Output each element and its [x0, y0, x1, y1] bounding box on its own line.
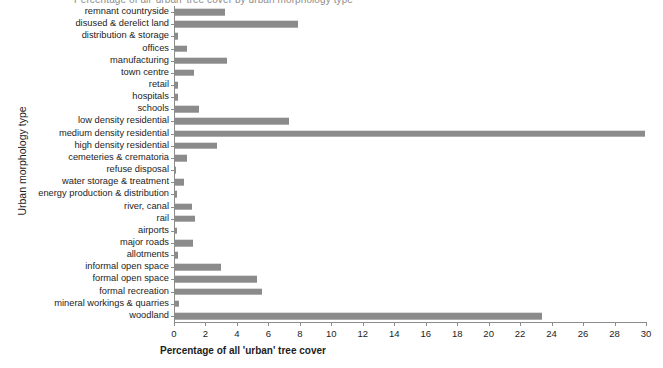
x-axis-tick: [394, 322, 395, 326]
bar-category-label: airports: [138, 226, 169, 235]
bar-row: low density residential: [174, 115, 646, 127]
bar-row: hospitals: [174, 91, 646, 103]
bar-row: cemeteries & crematoria: [174, 152, 646, 164]
y-axis-tick: [171, 24, 174, 25]
x-axis-tick: [489, 322, 490, 326]
bar-category-label: medium density residential: [59, 129, 169, 138]
x-axis-tick: [205, 322, 206, 326]
bar-category-label: hospitals: [132, 92, 169, 101]
bar: [175, 106, 199, 113]
bar-row: manufacturing: [174, 55, 646, 67]
bar-category-label: water storage & treatment: [62, 178, 169, 187]
bar: [175, 179, 184, 186]
bar-category-label: distribution & storage: [82, 32, 169, 41]
bar-row: water storage & treatment: [174, 176, 646, 188]
x-axis-tick-label: 8: [297, 328, 302, 339]
y-axis-tick: [171, 194, 174, 195]
bar-category-label: refuse disposal: [106, 165, 169, 174]
bar: [175, 82, 178, 89]
x-axis-tick-label: 10: [326, 328, 337, 339]
x-axis-tick: [552, 322, 553, 326]
y-axis-tick: [171, 207, 174, 208]
bar-row: energy production & distribution: [174, 188, 646, 200]
x-axis-tick: [583, 322, 584, 326]
x-axis-tick-label: 6: [266, 328, 271, 339]
bar-row: mineral workings & quarries: [174, 298, 646, 310]
y-axis-tick: [171, 12, 174, 13]
chart-title: Percentage of all 'urban' tree cover by …: [74, 0, 353, 5]
bar-category-label: high density residential: [74, 141, 169, 150]
bar-row: refuse disposal: [174, 164, 646, 176]
y-axis-title: Urban morphology type: [16, 81, 28, 241]
y-axis-tick: [171, 219, 174, 220]
x-axis-tick-label: 24: [546, 328, 557, 339]
bar-category-label: informal open space: [85, 263, 169, 272]
bar: [175, 70, 194, 77]
bar-category-label: town centre: [121, 68, 169, 77]
bar-category-label: schools: [137, 105, 169, 114]
bar-category-label: mineral workings & quarries: [54, 299, 169, 308]
bar-row: rail: [174, 213, 646, 225]
y-axis-tick: [171, 85, 174, 86]
bar-row: remnant countryside: [174, 6, 646, 18]
y-axis-tick: [171, 182, 174, 183]
bar-row: disused & derelict land: [174, 18, 646, 30]
x-axis-tick-label: 16: [420, 328, 431, 339]
y-axis-tick: [171, 49, 174, 50]
x-axis-tick: [363, 322, 364, 326]
bar-category-label: manufacturing: [110, 56, 169, 65]
x-axis-tick-label: 2: [203, 328, 208, 339]
bar: [175, 130, 645, 137]
bar: [175, 21, 298, 28]
bar: [175, 191, 177, 198]
bar-category-label: woodland: [129, 311, 169, 320]
bar: [175, 45, 187, 52]
bar: [175, 142, 217, 149]
x-axis-tick-label: 18: [452, 328, 463, 339]
bar: [175, 288, 262, 295]
y-axis-tick: [171, 292, 174, 293]
bar-row: airports: [174, 225, 646, 237]
bar: [175, 155, 187, 162]
y-axis-tick: [171, 267, 174, 268]
y-axis-tick: [171, 279, 174, 280]
y-axis-tick: [171, 36, 174, 37]
plot-area: remnant countrysidedisused & derelict la…: [174, 6, 646, 322]
bar: [175, 276, 257, 283]
bar-category-label: formal recreation: [99, 287, 169, 296]
x-axis-title: Percentage of all 'urban' tree cover: [160, 345, 326, 356]
y-axis-tick: [171, 158, 174, 159]
bar-category-label: energy production & distribution: [38, 190, 169, 199]
bar: [175, 252, 178, 259]
bar-row: woodland: [174, 310, 646, 322]
bar: [175, 94, 178, 101]
x-axis-tick-label: 12: [358, 328, 369, 339]
bar-category-label: low density residential: [78, 117, 169, 126]
bar-row: town centre: [174, 67, 646, 79]
bar: [175, 300, 179, 307]
bar: [175, 57, 227, 64]
bar-row: major roads: [174, 237, 646, 249]
x-axis-tick: [520, 322, 521, 326]
bar-row: high density residential: [174, 140, 646, 152]
bar-category-label: remnant countryside: [85, 7, 169, 16]
bar-row: formal recreation: [174, 286, 646, 298]
y-axis-tick: [171, 243, 174, 244]
bar-category-label: cemeteries & crematoria: [68, 153, 169, 162]
x-axis-tick-label: 22: [515, 328, 526, 339]
bar: [175, 313, 542, 320]
y-axis-tick: [171, 134, 174, 135]
bar: [175, 203, 192, 210]
bar-row: medium density residential: [174, 128, 646, 140]
x-axis-tick-label: 30: [641, 328, 652, 339]
x-axis-tick-label: 14: [389, 328, 400, 339]
bar: [175, 228, 177, 235]
x-axis-tick: [237, 322, 238, 326]
x-axis-tick: [268, 322, 269, 326]
bar: [175, 9, 225, 16]
bar: [175, 167, 176, 174]
x-axis-line: [174, 322, 647, 323]
x-axis-tick: [426, 322, 427, 326]
bar-row: distribution & storage: [174, 30, 646, 42]
x-axis-tick-label: 4: [234, 328, 239, 339]
